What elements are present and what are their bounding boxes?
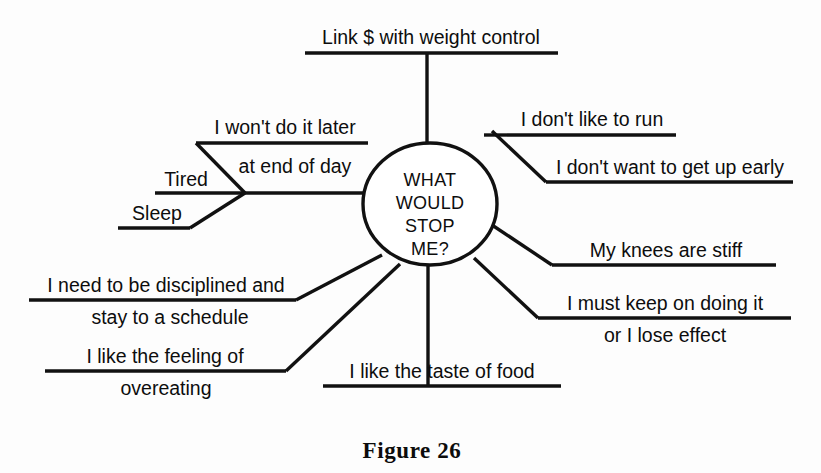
branch-label-link-money-weight-control: Link $ with weight control bbox=[322, 26, 540, 48]
connector-like-the-feeling-of-overeating bbox=[286, 264, 400, 371]
connector-must-keep-on-doing-it bbox=[474, 258, 538, 318]
branch-label-dont-like-to-run: I don't like to run bbox=[521, 108, 663, 130]
branch-label-wont-do-it-later-line-1: I won't do it later bbox=[214, 116, 356, 138]
branch-label-must-keep-on-doing-it-line-1: I must keep on doing it bbox=[567, 292, 764, 314]
hub-line-4: ME? bbox=[411, 239, 449, 259]
mind-map-diagram: WHAT WOULD STOP ME? Link $ with weight c… bbox=[0, 0, 821, 473]
branch-label-dont-want-to-get-up-early: I don't want to get up early bbox=[556, 156, 784, 178]
branch-label-knees-are-stiff: My knees are stiff bbox=[590, 239, 743, 261]
connector-sleep bbox=[190, 193, 245, 228]
branch-label-sleep: Sleep bbox=[132, 202, 182, 224]
branch-label-like-the-feeling-of-overeating-line-2: overeating bbox=[120, 377, 211, 399]
branch-label-like-the-feeling-of-overeating-line-1: I like the feeling of bbox=[86, 345, 244, 367]
hub-line-1: WHAT bbox=[404, 170, 457, 190]
branch-label-like-the-taste-of-food: I like the taste of food bbox=[349, 360, 534, 382]
branch-label-need-to-be-disciplined-line-2: stay to a schedule bbox=[91, 306, 248, 328]
branch-label-tired: Tired bbox=[164, 168, 208, 190]
branch-label-must-keep-on-doing-it-line-2: or I lose effect bbox=[604, 324, 727, 346]
connector-dont-want-to-get-up-early bbox=[492, 131, 546, 182]
hub-line-2: WOULD bbox=[396, 193, 465, 213]
hub-line-3: STOP bbox=[405, 216, 455, 236]
figure-caption: Figure 26 bbox=[363, 438, 462, 463]
branch-label-wont-do-it-later-line-2: at end of day bbox=[239, 155, 352, 177]
connector-knees-are-stiff bbox=[489, 223, 552, 265]
branch-label-need-to-be-disciplined-line-1: I need to be disciplined and bbox=[47, 274, 284, 296]
figure-container: WHAT WOULD STOP ME? Link $ with weight c… bbox=[0, 0, 821, 473]
